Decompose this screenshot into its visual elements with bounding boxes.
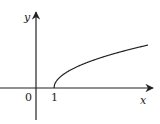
function-graph: y x 0 1 xyxy=(0,0,160,124)
sqrt-curve xyxy=(54,45,148,88)
origin-label: 0 xyxy=(25,91,32,104)
x-tick-label-1: 1 xyxy=(51,91,58,104)
y-axis-label: y xyxy=(23,11,31,24)
x-axis-label: x xyxy=(140,94,147,107)
